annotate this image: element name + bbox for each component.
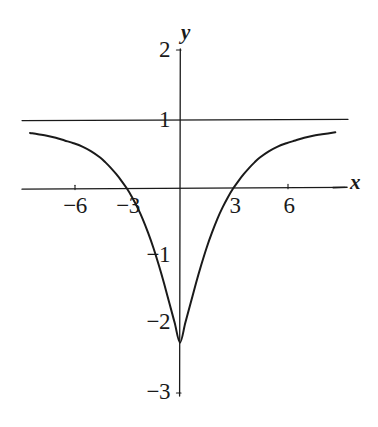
x-axis-label: x bbox=[350, 172, 361, 193]
y-axis-label: y bbox=[181, 22, 190, 43]
y-tick-label-neg3: −3 bbox=[126, 380, 170, 403]
x-tick-label-neg3: −3 bbox=[108, 194, 148, 217]
gridline-y-1 bbox=[22, 119, 348, 120]
y-tick-label-neg2: −2 bbox=[126, 310, 170, 333]
x-tick-label-3: 3 bbox=[215, 194, 255, 217]
x-tick-label-neg6: −6 bbox=[55, 194, 95, 217]
y-axis-line bbox=[180, 49, 181, 396]
data-curve bbox=[30, 132, 335, 342]
function-graph-figure: 2 1 −1 −2 −3 −6 −3 3 6 y x bbox=[0, 0, 378, 427]
x-axis-line bbox=[22, 187, 345, 189]
x-tick-label-6: 6 bbox=[269, 194, 309, 217]
y-tick-label-neg1: −1 bbox=[126, 243, 170, 266]
y-tick-label-2: 2 bbox=[126, 38, 170, 61]
y-tick-label-1: 1 bbox=[126, 108, 170, 131]
